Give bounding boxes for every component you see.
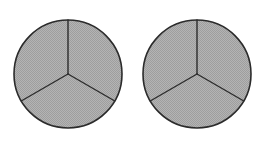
shapes-layer — [14, 20, 251, 128]
circle-left — [14, 20, 122, 128]
figure-canvas — [0, 0, 266, 148]
two-circles-figure — [0, 0, 266, 148]
circle-right — [143, 20, 251, 128]
